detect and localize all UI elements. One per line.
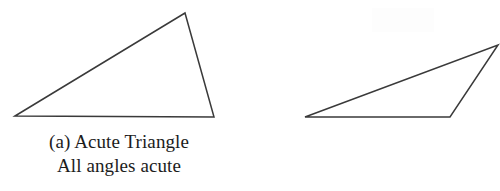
caption-acute-triangle: (a) Acute Triangle All angles acute [0,130,238,179]
caption-acute-line-1: (a) Acute Triangle [0,130,238,154]
triangle-figure: (a) Acute Triangle All angles acute (b) … [0,0,500,191]
panel-obtuse-triangle: (b) Obtuse Triangle One angle obtuse [250,0,500,191]
caption-acute-line-2: All angles acute [0,154,238,178]
panel-acute-triangle: (a) Acute Triangle All angles acute [0,0,250,191]
